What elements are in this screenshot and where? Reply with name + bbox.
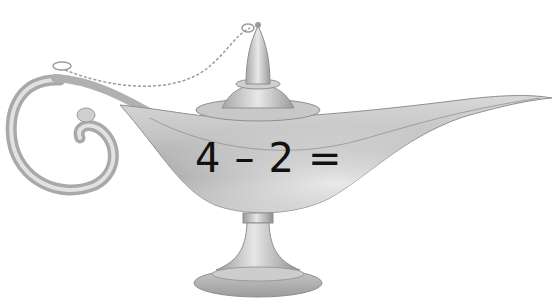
operand-a: 4 <box>195 138 222 178</box>
minus-operator: – <box>234 138 256 178</box>
handle <box>11 78 160 190</box>
equals-sign: = <box>308 138 344 178</box>
lamp-illustration: 4–2= <box>0 0 554 305</box>
math-expression: 4–2= <box>195 138 355 178</box>
pedestal <box>194 213 322 297</box>
chain <box>65 28 250 86</box>
lid <box>196 22 320 121</box>
operand-b: 2 <box>268 138 295 178</box>
